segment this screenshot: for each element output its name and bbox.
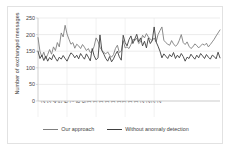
legend-item-0[interactable]: Our approach: [43, 126, 94, 132]
chart-plot-area: Number of exchanged messages 05010015020…: [8, 7, 224, 145]
legend-label-0: Our approach: [61, 126, 94, 132]
legend-item-1[interactable]: Without anomaly detection: [107, 126, 189, 132]
chart-legend: Our approachWithout anomaly detection: [8, 126, 224, 132]
chart-card: Number of exchanged messages 05010015020…: [7, 6, 223, 144]
legend-label-1: Without anomaly detection: [125, 126, 189, 132]
legend-line-icon: [43, 129, 58, 130]
line-chart-graphic: [8, 7, 224, 145]
legend-line-icon: [107, 129, 122, 130]
